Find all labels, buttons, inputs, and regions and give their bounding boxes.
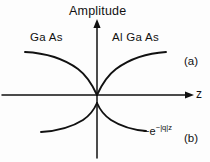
curve-a-right-branch	[97, 52, 166, 95]
formula-base: −e	[143, 125, 156, 137]
figure-canvas: Amplitude Ga As Al Ga As z (a) (b) −e−|q…	[0, 0, 210, 162]
x-axis-arrowhead-icon	[185, 91, 194, 98]
curve-b-right-branch	[97, 103, 146, 131]
plot-svg	[0, 0, 210, 162]
formula-annotation-b: −e−|q|z	[143, 124, 172, 137]
region-label-gaas: Ga As	[30, 32, 63, 44]
x-axis-label: z	[196, 88, 202, 100]
y-axis-arrowhead-icon	[93, 19, 100, 28]
curve-b-left-branch	[41, 103, 97, 132]
curve-a-left-branch	[25, 52, 97, 95]
curve-tag-b: (b)	[184, 133, 198, 145]
curve-tag-a: (a)	[184, 56, 198, 68]
region-label-algaas: Al Ga As	[112, 32, 159, 44]
formula-exponent: −|q|z	[156, 123, 172, 132]
y-axis-title: Amplitude	[69, 5, 126, 18]
